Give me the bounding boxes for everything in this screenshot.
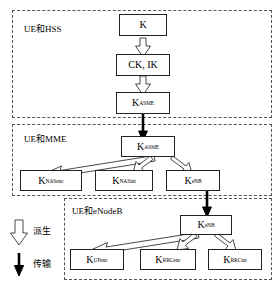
solid-arrow-icon — [14, 253, 23, 276]
legend-icons — [0, 0, 280, 292]
diagram-canvas: UE和HSS UE和MME UE和eNodeB — [0, 0, 280, 292]
legend-label-transmit: 传输 — [33, 259, 51, 269]
legend-label-derive: 派生 — [33, 226, 51, 236]
hollow-arrow-icon — [11, 220, 28, 245]
